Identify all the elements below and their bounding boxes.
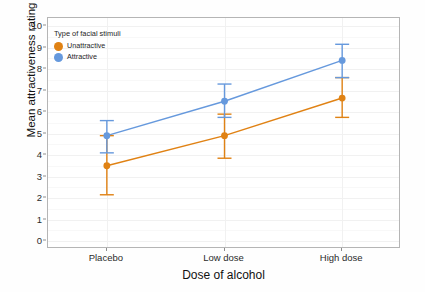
datapoint-attractive-low-dose (221, 98, 228, 105)
x-axis-tickmark (341, 248, 342, 251)
y-axis-tickmark (43, 68, 46, 69)
y-axis-ticklabel: 10 (20, 20, 42, 31)
y-axis-tickmark (43, 46, 46, 47)
y-axis-tickmark (43, 89, 46, 90)
x-axis-tickmark (224, 248, 225, 251)
y-axis-tickmark (43, 111, 46, 112)
y-axis-ticklabel: 6 (20, 106, 42, 117)
x-axis-ticklabel: High dose (320, 252, 363, 263)
y-axis-tickmark (43, 25, 46, 26)
y-axis-ticklabel: 5 (20, 127, 42, 138)
legend-swatch-icon (54, 42, 63, 51)
y-axis-ticklabel: 7 (20, 84, 42, 95)
x-axis-tickmark (106, 248, 107, 251)
legend: Type of facial stimuli UnattractiveAttra… (54, 30, 121, 64)
y-axis-ticklabel: 3 (20, 170, 42, 181)
y-axis-tickmark (43, 132, 46, 133)
legend-item-label: Unattractive (67, 42, 105, 50)
x-axis-title: Dose of alcohol (47, 268, 400, 282)
y-axis-ticklabel: 9 (20, 41, 42, 52)
x-axis-ticklabel: Placebo (89, 252, 123, 263)
y-axis-tickmark (43, 197, 46, 198)
y-axis-ticklabel: 2 (20, 192, 42, 203)
legend-items: UnattractiveAttractive (54, 42, 121, 62)
datapoint-unattractive-low-dose (221, 132, 228, 139)
chart-figure: Mean attractiveness rating 012345678910 … (0, 0, 425, 292)
y-axis-ticklabel: 4 (20, 149, 42, 160)
datapoint-unattractive-placebo (103, 162, 110, 169)
legend-item-unattractive[interactable]: Unattractive (54, 42, 121, 51)
x-axis-ticklabel: Low dose (203, 252, 244, 263)
datapoint-unattractive-high-dose (339, 95, 346, 102)
plot-panel: Type of facial stimuli UnattractiveAttra… (47, 17, 400, 248)
legend-item-label: Attractive (67, 53, 97, 61)
legend-title: Type of facial stimuli (54, 30, 121, 39)
y-axis-tickmark (43, 154, 46, 155)
y-axis-ticklabel: 8 (20, 63, 42, 74)
y-axis-ticklabel: 1 (20, 213, 42, 224)
y-axis-tickmark (43, 240, 46, 241)
y-axis-ticklabel: 0 (20, 235, 42, 246)
legend-item-attractive[interactable]: Attractive (54, 53, 121, 62)
y-axis-tickmark (43, 218, 46, 219)
datapoint-attractive-placebo (103, 132, 110, 139)
y-axis-tickmark (43, 175, 46, 176)
legend-swatch-icon (54, 53, 63, 62)
datapoint-attractive-high-dose (339, 57, 346, 64)
y-axis-ticklabels: 012345678910 (20, 18, 42, 248)
